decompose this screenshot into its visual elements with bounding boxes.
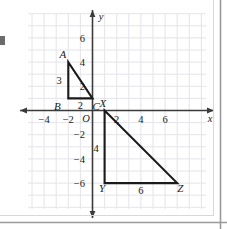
- y-tick-label: −4: [74, 154, 86, 165]
- x-tick-label: −4: [39, 114, 51, 125]
- y-tick-label: −2: [74, 129, 85, 140]
- side-length-label: 4: [94, 143, 100, 154]
- vertex-label-a: A: [58, 48, 66, 60]
- y-tick-label: 6: [80, 33, 85, 44]
- x-tick-label: 4: [138, 114, 144, 125]
- coordinate-plane-figure: xyO−4−2246642−2−4−63246ABCXYZ: [0, 0, 227, 229]
- side-length-label: 6: [138, 185, 143, 196]
- origin-label: O: [82, 113, 90, 124]
- x-axis-label: x: [207, 113, 213, 124]
- x-tick-label: 6: [162, 114, 167, 125]
- y-tick-label: −6: [74, 178, 85, 189]
- vertex-label-z: Z: [177, 182, 184, 194]
- vertex-label-b: B: [54, 100, 61, 112]
- vertex-label-x: X: [98, 97, 107, 109]
- y-tick-label: 4: [80, 57, 86, 68]
- page-edge-mark: [0, 36, 5, 45]
- side-length-label: 3: [57, 75, 62, 86]
- y-axis-label: y: [98, 11, 104, 22]
- side-length-label: 2: [78, 100, 83, 111]
- x-tick-label: −2: [63, 114, 74, 125]
